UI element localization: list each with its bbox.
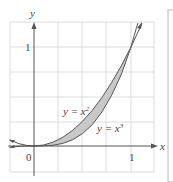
y-axis-arrow-icon <box>32 22 37 29</box>
chart: y x 0 1 1 y = x2 y = x3 <box>0 0 173 182</box>
y-tick-1: 1 <box>25 41 31 53</box>
curve-label-x-squared: y = x2 <box>62 105 90 117</box>
side-panel-edge <box>168 10 173 182</box>
y-axis-label: y <box>29 7 35 19</box>
origin-label: 0 <box>26 151 32 163</box>
curve-label-x-cubed: y = x3 <box>96 122 124 134</box>
x-axis-label: x <box>159 140 165 152</box>
x-tick-1: 1 <box>129 151 135 163</box>
